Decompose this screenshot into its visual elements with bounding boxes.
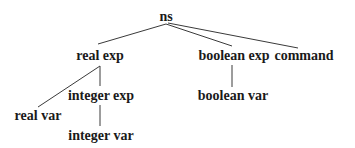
edge-ns-command — [168, 23, 298, 48]
edge-ns-boolean-exp — [166, 24, 232, 46]
node-real-var: real var — [15, 109, 62, 123]
node-boolean-var: boolean var — [198, 89, 268, 103]
node-ns: ns — [159, 10, 172, 24]
edge-ns-real-exp — [98, 24, 166, 44]
node-real-exp: real exp — [76, 49, 124, 63]
node-command: command — [274, 49, 333, 63]
node-integer-var: integer var — [68, 129, 133, 143]
node-boolean-exp: boolean exp — [198, 49, 269, 63]
syntax-tree-diagram: ns real exp boolean exp command integer … — [0, 0, 355, 148]
node-integer-exp: integer exp — [68, 89, 134, 103]
tree-edges — [0, 0, 355, 148]
